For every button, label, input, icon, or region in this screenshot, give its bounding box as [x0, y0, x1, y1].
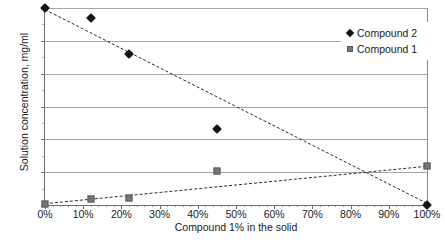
trendline [45, 166, 427, 203]
marker-glyph [347, 46, 353, 52]
marker-glyph [345, 29, 353, 37]
data-point-square [87, 196, 94, 203]
legend-label: Compound 2 [355, 27, 417, 39]
chart-figure: Solution concentration, mg/ml Compound 1… [0, 0, 445, 240]
diamond-marker-icon [344, 30, 355, 36]
square-marker-icon [344, 46, 355, 52]
data-point-square [424, 162, 431, 169]
legend-item[interactable]: Compound 2 [344, 25, 445, 41]
x-axis-title: Compound 1% in the solid [45, 221, 427, 233]
legend-item[interactable]: Compound 1 [344, 41, 445, 57]
y-axis-title: Solution concentration, mg/ml [18, 12, 30, 192]
x-tick-label: 100% [404, 209, 445, 220]
data-point-square [126, 195, 133, 202]
data-point-square [42, 201, 49, 208]
x-axis-line [45, 205, 428, 206]
plot-area: 0123456 0%10%20%30%40%50%60%70%80%90%100… [45, 8, 427, 205]
data-point-square [213, 167, 220, 174]
chart-legend: Compound 2Compound 1 [341, 22, 445, 60]
legend-label: Compound 1 [355, 43, 417, 55]
